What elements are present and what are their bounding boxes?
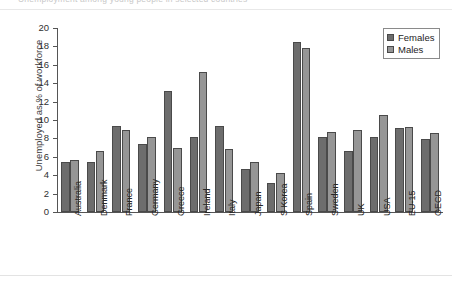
bar-eu-15-females[interactable]	[395, 128, 404, 212]
x-axis-labels: AustraliaDenmarkFranceGermanyGreeceIrela…	[57, 214, 443, 282]
bar-group	[237, 28, 263, 212]
x-axis-label-france: France	[125, 188, 134, 216]
x-axis-label-s-korea: S Korea	[280, 183, 289, 216]
legend-item-males[interactable]: Males	[387, 43, 434, 55]
bar-italy-females[interactable]	[215, 126, 224, 212]
bar-spain-males[interactable]	[302, 48, 311, 212]
bar-group	[108, 28, 134, 212]
x-axis-label-oecd: OECD	[434, 190, 443, 216]
y-tick-label: 6	[44, 151, 49, 162]
x-axis-label-australia: Australia	[74, 181, 83, 216]
bar-group	[160, 28, 186, 212]
bar-s-korea-females[interactable]	[267, 183, 276, 212]
y-tick-label: 12	[38, 96, 49, 107]
x-axis-label-italy: Italy	[228, 199, 237, 216]
x-axis-label-uk: UK	[357, 203, 366, 216]
x-axis-label-spain: Spain	[305, 193, 314, 216]
y-tick-label: 14	[38, 77, 49, 88]
y-tick-label: 20	[38, 22, 49, 33]
legend-label-males: Males	[398, 44, 423, 55]
bar-group	[211, 28, 237, 212]
bar-uk-males[interactable]	[353, 130, 362, 212]
legend-item-females[interactable]: Females	[387, 31, 434, 43]
bar-japan-females[interactable]	[241, 169, 250, 212]
x-axis-label-eu-15: EU-15	[408, 190, 417, 216]
x-axis-label-ireland: Ireland	[203, 188, 212, 216]
legend-swatch-females-icon	[387, 34, 394, 41]
bar-group	[340, 28, 366, 212]
x-axis-label-sweden: Sweden	[331, 183, 340, 216]
caption-strip: Unemployment among young people in selec…	[0, 0, 452, 9]
y-tick-label: 16	[38, 59, 49, 70]
bar-usa-females[interactable]	[370, 137, 379, 212]
y-tick-label: 18	[38, 40, 49, 51]
y-tick-label: 4	[44, 169, 49, 180]
bar-australia-females[interactable]	[61, 162, 70, 212]
divider-top	[0, 9, 452, 10]
bar-germany-females[interactable]	[138, 144, 147, 212]
x-axis-label-japan: Japan	[254, 191, 263, 216]
bar-greece-females[interactable]	[164, 91, 173, 212]
bar-uk-females[interactable]	[344, 151, 353, 212]
legend-label-females: Females	[398, 32, 434, 43]
y-tick-label: 10	[38, 114, 49, 125]
x-axis-label-greece: Greece	[177, 186, 186, 216]
chart-caption: Unemployment among young people in selec…	[18, 0, 247, 4]
bar-ireland-females[interactable]	[190, 137, 199, 212]
x-axis-label-usa: USA	[383, 197, 392, 216]
bar-group	[186, 28, 212, 212]
y-tick-mark	[53, 212, 57, 213]
y-tick-label: 2	[44, 188, 49, 199]
bar-oecd-females[interactable]	[421, 139, 430, 212]
x-axis-label-denmark: Denmark	[100, 179, 109, 216]
bar-spain-females[interactable]	[293, 42, 302, 212]
legend-swatch-males-icon	[387, 46, 394, 53]
x-axis-label-germany: Germany	[151, 179, 160, 216]
bar-sweden-females[interactable]	[318, 137, 327, 212]
bar-group	[289, 28, 315, 212]
y-tick-label: 8	[44, 132, 49, 143]
bar-denmark-females[interactable]	[87, 162, 96, 212]
chart-legend: Females Males	[383, 28, 440, 59]
y-tick-label: 0	[44, 206, 49, 217]
bar-france-females[interactable]	[112, 126, 121, 212]
chart-figure: Unemployment among young people in selec…	[0, 0, 452, 283]
